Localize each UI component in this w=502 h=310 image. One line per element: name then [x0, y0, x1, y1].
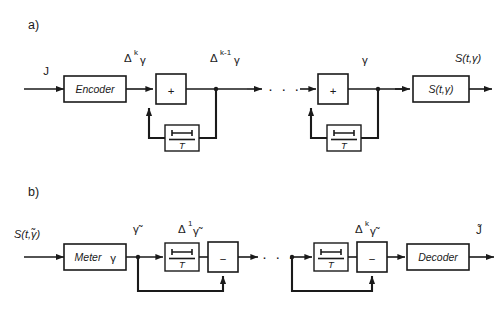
panel-b-output-label: J̃: [476, 224, 482, 236]
encoder-label: Encoder: [75, 83, 115, 95]
difference-2-label: −: [369, 253, 376, 265]
panel-b-input-label: S(t,γ̃): [14, 228, 41, 240]
decoder-label: Decoder: [418, 251, 458, 263]
svg-text:Δ: Δ: [178, 223, 186, 235]
panel-b-label: b): [28, 185, 39, 199]
panel-a-output-label: S(t,γ): [455, 52, 482, 64]
svg-text:Δ: Δ: [355, 223, 363, 235]
difference-1-label: −: [220, 253, 227, 265]
svg-text:γ: γ: [234, 54, 240, 66]
svg-text:k-1: k-1: [220, 48, 232, 57]
block-diagram-svg: a) J Encoder Δ k γ + Δ k-1 γ T · · · + γ: [0, 0, 502, 310]
meter-label: Meter: [75, 251, 102, 263]
meter-gamma-label: γ: [110, 252, 116, 264]
label-gamma: γ: [362, 54, 368, 66]
summing-junction-2-label: +: [330, 85, 337, 97]
summing-junction-1-label: +: [168, 85, 175, 97]
svg-text:Δ: Δ: [210, 52, 218, 64]
svg-text:Δ: Δ: [124, 52, 132, 64]
transfer-block-label: S(t,γ): [428, 83, 453, 95]
panel-a-input-label: J: [43, 65, 49, 77]
panel-a-label: a): [28, 18, 39, 32]
svg-text:γ: γ: [140, 54, 146, 66]
figure-canvas: a) J Encoder Δ k γ + Δ k-1 γ T · · · + γ: [0, 0, 502, 310]
panel-a-ellipsis: · · ·: [268, 80, 301, 97]
